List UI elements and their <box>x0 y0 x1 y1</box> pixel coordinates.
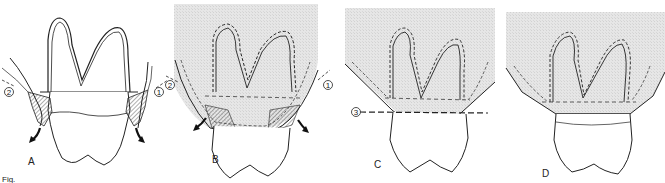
panel-a: 2 1 A <box>2 18 168 167</box>
svg-text:2: 2 <box>7 88 12 97</box>
panel-label-c: C <box>374 159 381 170</box>
figure-caption: Fig. <box>2 176 15 183</box>
panel-d: D <box>506 12 665 179</box>
cut-line-3 <box>360 112 488 113</box>
panel-label-b: B <box>212 154 219 165</box>
tooth-roots <box>48 18 130 92</box>
panel-c: 3 C <box>345 8 495 172</box>
hatched-bone-right <box>126 90 148 126</box>
panel-label-a: A <box>28 156 35 167</box>
bone-shading <box>506 12 665 114</box>
svg-text:3: 3 <box>354 108 359 117</box>
dental-figure: 2 1 A 2 1 B <box>0 0 665 183</box>
svg-text:1: 1 <box>326 81 331 90</box>
panel-label-d: D <box>542 168 549 179</box>
tooth-crown <box>48 92 130 165</box>
svg-text:2: 2 <box>168 81 173 90</box>
svg-text:1: 1 <box>157 88 162 97</box>
panel-b: 2 1 B <box>166 4 333 178</box>
